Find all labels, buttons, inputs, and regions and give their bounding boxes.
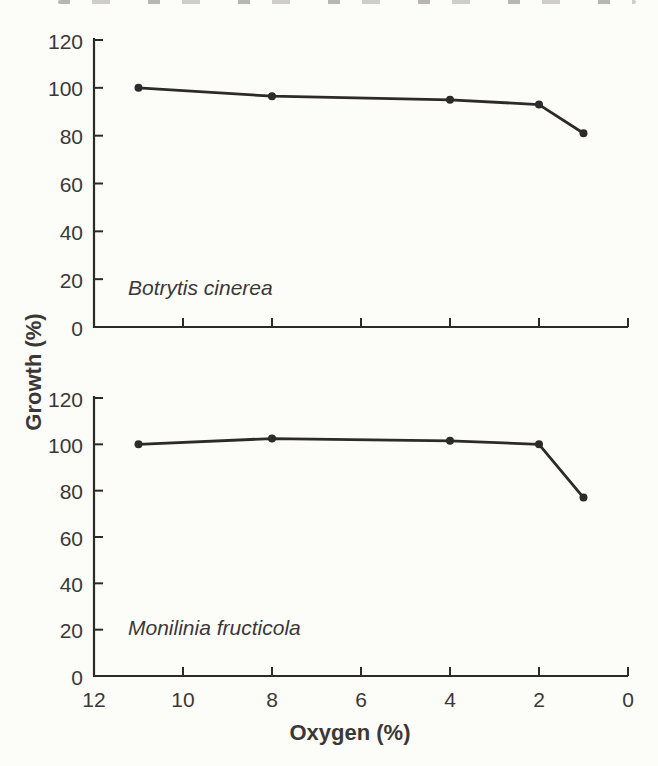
x-tick-label: 10 [171, 688, 194, 711]
data-point [580, 129, 588, 137]
y-tick-label: 80 [60, 125, 83, 148]
series-label-monilinia-fructicola: Monilinia fructicola [128, 616, 301, 640]
y-axis-title: Growth (%) [21, 313, 47, 430]
y-tick-label: 0 [71, 666, 83, 689]
figure-canvas: 020406080100120020406080100120121086420 … [0, 0, 658, 766]
data-line [139, 439, 584, 498]
data-point [580, 494, 588, 502]
y-tick-label: 0 [71, 317, 83, 340]
y-tick-label: 20 [60, 269, 83, 292]
data-line [139, 88, 584, 133]
y-tick-label: 80 [60, 480, 83, 503]
data-point [135, 84, 143, 92]
y-tick-label: 60 [60, 527, 83, 550]
y-tick-label: 100 [48, 434, 83, 457]
y-tick-label: 20 [60, 619, 83, 642]
data-point [535, 440, 543, 448]
chart-monilinia: 020406080100120121086420 [48, 388, 634, 711]
y-tick-label: 100 [48, 77, 83, 100]
y-tick-label: 40 [60, 221, 83, 244]
x-axis-title: Oxygen (%) [289, 720, 410, 746]
x-tick-label: 6 [355, 688, 367, 711]
data-point [446, 437, 454, 445]
x-tick-label: 8 [266, 688, 278, 711]
y-tick-label: 120 [48, 388, 83, 411]
data-point [135, 440, 143, 448]
data-point [535, 101, 543, 109]
y-tick-label: 60 [60, 173, 83, 196]
x-tick-label: 0 [622, 688, 634, 711]
data-point [268, 92, 276, 100]
x-tick-label: 2 [533, 688, 545, 711]
y-tick-label: 40 [60, 573, 83, 596]
data-point [268, 435, 276, 443]
x-tick-label: 12 [82, 688, 105, 711]
line-charts-svg: 020406080100120020406080100120121086420 [0, 0, 658, 766]
y-tick-label: 120 [48, 30, 83, 53]
series-label-botrytis-cinerea: Botrytis cinerea [128, 276, 273, 300]
data-point [446, 96, 454, 104]
x-tick-label: 4 [444, 688, 456, 711]
